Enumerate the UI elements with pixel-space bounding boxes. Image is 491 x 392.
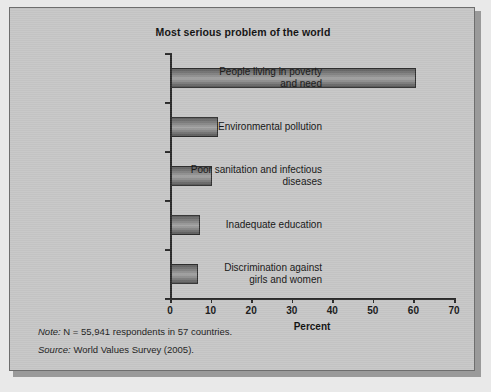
x-axis-tick-label: 0 <box>155 305 185 316</box>
chart-title: Most serious problem of the world <box>10 26 475 38</box>
category-label-line: Discrimination against <box>162 262 322 274</box>
category-label-line: and need <box>162 78 322 90</box>
source-label: Source: <box>38 344 71 355</box>
x-axis-tick-label: 20 <box>236 305 266 316</box>
x-axis-tick-label: 60 <box>398 305 428 316</box>
figure-frame: Most serious problem of the world 010203… <box>9 7 475 371</box>
category-label-line: Environmental pollution <box>162 121 322 133</box>
y-axis-category-label: Environmental pollution <box>162 121 322 133</box>
x-axis-tick-label: 50 <box>358 305 388 316</box>
x-axis-tick-label: 10 <box>196 305 226 316</box>
category-label-line: People living in poverty <box>162 66 322 78</box>
figure-footnotes: Note: N = 55,941 respondents in 57 count… <box>38 326 438 362</box>
x-axis-tick <box>251 298 253 303</box>
y-axis-category-label: People living in povertyand need <box>162 66 322 90</box>
x-axis-line <box>170 298 454 300</box>
figure-note: Note: N = 55,941 respondents in 57 count… <box>38 326 438 337</box>
category-label-line: Poor sanitation and infectious <box>162 164 322 176</box>
x-axis-tick <box>211 298 213 303</box>
figure-source: Source: World Values Survey (2005). <box>38 344 438 355</box>
figure-root: Most serious problem of the world 010203… <box>0 0 491 392</box>
y-axis-category-label: Poor sanitation and infectiousdiseases <box>162 164 322 188</box>
source-text: World Values Survey (2005). <box>71 344 194 355</box>
category-label-line: girls and women <box>162 274 322 286</box>
x-axis-tick-label: 40 <box>317 305 347 316</box>
x-axis-tick <box>413 298 415 303</box>
x-axis-tick-label: 70 <box>439 305 469 316</box>
x-axis-tick <box>373 298 375 303</box>
category-label-line: diseases <box>162 176 322 188</box>
note-label: Note: <box>38 326 61 337</box>
x-axis-tick-label: 30 <box>277 305 307 316</box>
x-axis-tick <box>332 298 334 303</box>
x-axis-tick <box>170 298 172 303</box>
y-axis-category-label: Inadequate education <box>162 219 322 231</box>
category-label-line: Inadequate education <box>162 219 322 231</box>
plot-area: 010203040506070 People living in poverty… <box>170 53 460 303</box>
y-axis-category-label: Discrimination againstgirls and women <box>162 262 322 286</box>
x-axis-tick <box>292 298 294 303</box>
x-axis-tick <box>454 298 456 303</box>
note-text: N = 55,941 respondents in 57 countries. <box>61 326 232 337</box>
y-axis-category-labels: People living in povertyand needEnvironm… <box>162 53 322 298</box>
